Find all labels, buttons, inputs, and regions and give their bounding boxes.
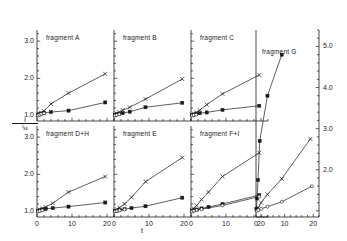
y-tick-label-right: 2.0 (323, 166, 343, 173)
panel-title: fragment E (123, 130, 157, 137)
panel-fragment-d-h (36, 126, 114, 217)
series-line-square (192, 106, 259, 115)
series-line-cross (115, 158, 182, 211)
x-tick-label: 10 (219, 220, 233, 227)
figure-root: i iss t fragment Afragment Bfragment Cfr… (0, 0, 347, 241)
x-tick-label: 0 (249, 220, 263, 227)
x-tick-label: 0 (30, 220, 44, 227)
x-tick-label: 0 (184, 220, 198, 227)
x-tick-label: 20 (306, 220, 320, 227)
series-line-cross (38, 177, 105, 211)
y-tick-label: 3.0 (14, 133, 34, 140)
y-tick-label: 1.0 (14, 207, 34, 214)
y-tick-label-right: 5.0 (323, 42, 343, 49)
panel-fragment-a (36, 30, 114, 121)
panel-title: fragment D+H (46, 130, 89, 137)
series-line-cross (257, 139, 311, 210)
y-tick-label: 2.0 (14, 170, 34, 177)
panel-title: fragment B (123, 34, 157, 41)
y-tick-label: 2.0 (14, 74, 34, 81)
y-tick-label: 1.0 (14, 111, 34, 118)
panel-fragment-g (255, 30, 319, 217)
series-line-square (38, 102, 105, 115)
series-line-square (38, 203, 105, 212)
x-tick-label: 10 (142, 220, 156, 227)
series-line-cross (115, 79, 182, 115)
panel-title: fragment A (46, 34, 79, 41)
panel-title: fragment G (262, 48, 297, 55)
series-line-cross (192, 153, 259, 211)
x-tick-label: 0 (107, 220, 121, 227)
x-tick-label: 10 (278, 220, 292, 227)
series-line-cross (192, 75, 259, 115)
panel-fragment-b (113, 30, 191, 121)
y-tick-label: 3.0 (14, 37, 34, 44)
series-line-open (257, 186, 312, 211)
series-line-cross (38, 74, 105, 115)
series-line-square-steep (256, 55, 281, 209)
panel-title: fragment F+I (200, 130, 239, 137)
panel-title: fragment C (200, 34, 234, 41)
y-tick-label-right: 4.0 (323, 84, 343, 91)
y-tick-label-right: 3.0 (323, 125, 343, 132)
x-tick-label: 10 (65, 220, 79, 227)
panel-fragment-e (113, 126, 191, 217)
